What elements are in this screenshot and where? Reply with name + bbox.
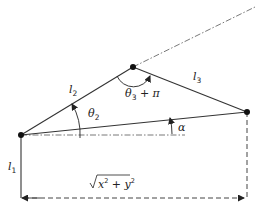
end-effector-joint: [244, 109, 250, 115]
label-theta3-plus-pi: θ3 + π: [125, 87, 161, 102]
svg-text:x2 + y2: x2 + y2: [98, 177, 135, 191]
label-l1: l1: [8, 160, 17, 175]
base-joint: [18, 132, 24, 138]
theta3-angle-arc: [117, 76, 150, 87]
label-alpha: α: [178, 121, 186, 134]
link2-extension-line: [133, 7, 255, 67]
manipulator-diagram: l1 l2 l3 θ2 θ3 + π α x2 + y2: [0, 0, 260, 211]
elbow-joint: [130, 64, 136, 70]
label-l3: l3: [193, 70, 202, 85]
alpha-angle-arc: [170, 118, 172, 134]
label-distance: x2 + y2: [90, 175, 135, 191]
base-to-end-line: [21, 112, 247, 135]
label-l2: l2: [69, 83, 78, 98]
label-theta2: θ2: [88, 107, 100, 122]
theta2-angle-arc: [72, 104, 80, 138]
